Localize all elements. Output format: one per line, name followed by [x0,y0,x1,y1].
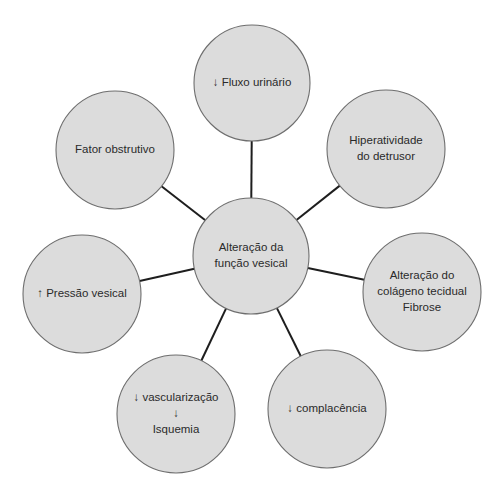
concept-map: Alteração dafunção vesical↓ Fluxo urinár… [0,0,500,488]
node-fluxo-label-line: ↓ Fluxo urinário [213,76,292,88]
node-hiperatividade-circle [327,90,445,208]
node-colageno-label-line: Fibrose [403,301,441,313]
node-vascularizacao-label-line: ↓ vascularização [133,391,218,403]
node-complacencia: ↓ complacência [268,350,386,468]
connector-line-hiperatividade [297,186,340,220]
node-colageno: Alteração docolágeno tecidualFibrose [363,233,481,351]
node-vascularizacao-label-line: Isquemia [153,423,200,435]
node-colageno-label-line: Alteração do [390,269,455,281]
node-vascularizacao: ↓ vascularização↓Isquemia [117,355,235,473]
node-fator: Fator obstrutivo [56,91,174,209]
connector-line-colageno [308,268,365,280]
central-node-label-line: função vesical [215,257,288,269]
node-pressao-label-line: ↑ Pressão vesical [37,287,126,299]
concept-nodes: Alteração dafunção vesical↓ Fluxo urinár… [23,25,481,473]
central-node: Alteração dafunção vesical [193,198,309,314]
node-hiperatividade: Hiperatividadedo detrusor [327,90,445,208]
node-vascularizacao-label-line: ↓ [173,407,179,419]
node-hiperatividade-label-line: Hiperatividade [349,134,423,146]
connector-line-pressao [140,269,195,281]
node-pressao: ↑ Pressão vesical [23,235,141,353]
central-node-label-line: Alteração da [219,241,284,253]
node-complacencia-label-line: ↓ complacência [287,402,367,414]
node-fator-label-line: Fator obstrutivo [75,143,155,155]
connector-line-complacencia [277,308,301,356]
central-node-circle [193,198,309,314]
connector-line-fator [162,186,206,220]
node-colageno-label-line: colágeno tecidual [377,285,467,297]
node-fluxo: ↓ Fluxo urinário [194,25,310,141]
node-hiperatividade-label-line: do detrusor [357,150,415,162]
connector-line-vascularizacao [201,308,226,360]
